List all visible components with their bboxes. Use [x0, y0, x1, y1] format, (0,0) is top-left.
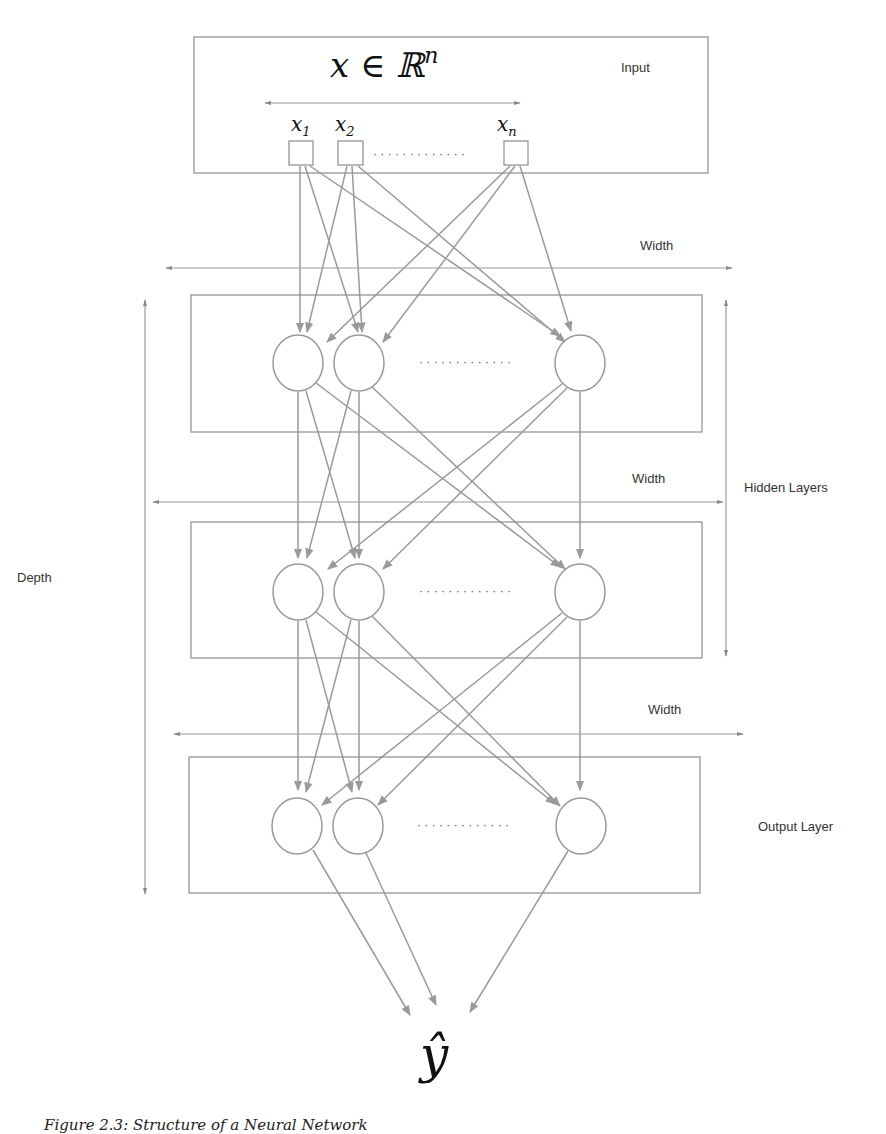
hidden1-node-1 — [273, 335, 323, 391]
output-yhat-math: ŷ — [418, 1026, 449, 1084]
input-label-x2: x2 — [335, 112, 355, 139]
input-node-n — [504, 141, 528, 165]
hidden2-ellipsis: · · · · · · · · · · · · · — [419, 584, 511, 598]
input-node-2 — [338, 141, 363, 165]
width-label-2: Width — [632, 471, 665, 486]
hidden2-node-1 — [273, 564, 323, 620]
hidden1-node-n — [555, 335, 605, 391]
hidden1-to-hidden2-connections — [298, 383, 580, 569]
hidden2-to-output-connections — [298, 612, 580, 806]
hidden-layer-2: · · · · · · · · · · · · · — [191, 522, 702, 658]
input-label: Input — [621, 60, 650, 75]
input-label-xn: xn — [497, 112, 517, 139]
output-node-1 — [272, 798, 322, 854]
input-node-1 — [289, 141, 313, 165]
depth-label: Depth — [17, 570, 52, 585]
hidden1-ellipsis: · · · · · · · · · · · · · — [419, 355, 511, 369]
input-label-x1: x1 — [291, 112, 311, 139]
input-space-math: x ∈ ℝn — [330, 43, 438, 85]
hidden1-node-2 — [334, 335, 384, 391]
hidden2-node-2 — [334, 564, 384, 620]
hidden-layers-label: Hidden Layers — [744, 480, 828, 495]
output-node-n — [556, 798, 606, 854]
input-layer-box: x ∈ ℝn Input x1 x2 xn · · · · · · · · · … — [194, 37, 708, 173]
hidden2-node-n — [555, 564, 605, 620]
output-layer: · · · · · · · · · · · · · — [189, 757, 700, 893]
width-label-1: Width — [640, 238, 673, 253]
output-layer-label: Output Layer — [758, 819, 834, 834]
width-label-3: Width — [648, 702, 681, 717]
hidden-layer-1: · · · · · · · · · · · · · — [191, 295, 702, 432]
figure-caption: Figure 2.3: Structure of a Neural Networ… — [44, 1116, 368, 1134]
input-ellipsis: · · · · · · · · · · · · · — [373, 147, 465, 161]
output-to-yhat-connections — [313, 850, 568, 1015]
output-ellipsis: · · · · · · · · · · · · · — [417, 818, 509, 832]
output-node-2 — [333, 798, 383, 854]
input-to-hidden1-connections — [300, 166, 571, 342]
